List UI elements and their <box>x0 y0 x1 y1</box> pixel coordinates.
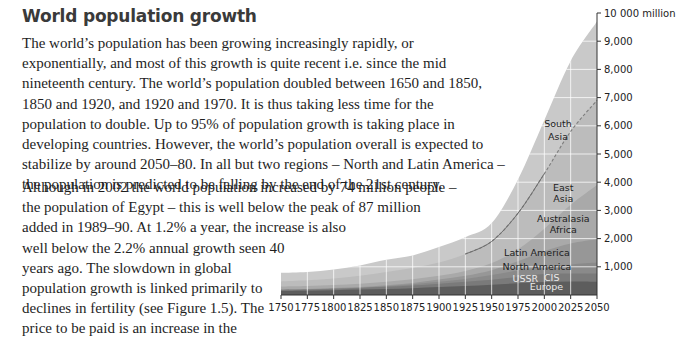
x-tick-label: 2025 <box>558 302 583 313</box>
band-label: Africa <box>550 224 577 235</box>
x-tick-label: 1775 <box>295 302 320 313</box>
text-line: price to be paid is an increase in the <box>22 318 457 338</box>
band-label: Australasia <box>537 213 590 224</box>
x-tick-label: 1900 <box>426 302 451 313</box>
band-label: South <box>544 118 572 129</box>
x-tick-label: 1750 <box>268 302 293 313</box>
x-tick-label: 2000 <box>532 302 557 313</box>
band-label: Asia <box>553 193 573 204</box>
x-tick-label: 1950 <box>479 302 504 313</box>
y-tick-label: 7,000 <box>604 92 633 103</box>
band-label: Asia <box>548 131 568 142</box>
y-tick-label: 1,000 <box>604 261 633 272</box>
y-tick-label: 5,000 <box>604 149 633 160</box>
x-tick-label: 1825 <box>347 302 372 313</box>
x-tick-label: 1800 <box>321 302 346 313</box>
y-tick-label: 10 000 million <box>604 8 675 19</box>
x-tick-label: 1875 <box>400 302 425 313</box>
band-label: North America <box>503 261 572 272</box>
x-axis: 1750177518001825185018751900192519501975… <box>268 295 609 313</box>
band-label: Latin America <box>504 247 570 258</box>
y-tick-label: 6,000 <box>604 120 633 131</box>
y-tick-label: 2,000 <box>604 233 633 244</box>
y-tick-label: 3,000 <box>604 205 633 216</box>
y-axis: 1,0002,0003,0004,0005,0006,0007,0008,000… <box>597 8 675 296</box>
x-tick-label: 1975 <box>505 302 530 313</box>
x-tick-label: 2050 <box>584 302 609 313</box>
x-tick-label: 1925 <box>453 302 478 313</box>
y-tick-label: 9,000 <box>604 36 633 47</box>
band-label: Europe <box>530 281 564 292</box>
y-tick-label: 8,000 <box>604 64 633 75</box>
y-tick-label: 4,000 <box>604 177 633 188</box>
band-label: East <box>553 182 574 193</box>
x-tick-label: 1850 <box>374 302 399 313</box>
